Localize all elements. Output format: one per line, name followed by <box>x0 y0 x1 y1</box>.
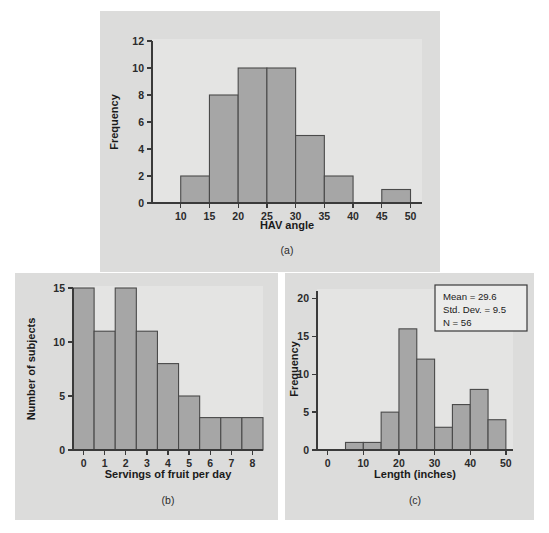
x-tick-label: 20 <box>232 210 244 222</box>
histogram-bar <box>115 288 136 450</box>
y-tick-label: 10 <box>132 62 144 74</box>
x-tick-label: 40 <box>347 210 359 222</box>
histogram-bar <box>452 405 470 450</box>
x-axis-ticks: 01020304050 <box>325 450 512 469</box>
x-tick-label: 10 <box>357 457 369 469</box>
y-tick-label: 8 <box>138 89 144 101</box>
histogram-bar <box>470 389 488 450</box>
y-axis-title: Frequency <box>108 93 120 150</box>
x-tick-label: 40 <box>464 457 476 469</box>
histogram-bar <box>238 68 267 203</box>
y-axis-ticks: 051015 <box>53 282 73 456</box>
histogram-bar <box>181 176 210 203</box>
figure-panel-b: 051015012345678Servings of fruit per day… <box>15 273 278 520</box>
stats-n: N = 56 <box>443 317 472 328</box>
x-tick-label: 50 <box>405 210 417 222</box>
stats-stddev: Std. Dev. = 9.5 <box>443 304 506 315</box>
histogram-servings-of-fruit: 051015012345678Servings of fruit per day… <box>15 273 278 520</box>
y-tick-label: 6 <box>138 116 144 128</box>
y-tick-label: 0 <box>303 444 309 456</box>
y-axis-ticks: 024681012 <box>132 35 152 209</box>
y-tick-label: 15 <box>297 330 309 342</box>
histogram-bar <box>267 68 296 203</box>
y-tick-label: 20 <box>297 292 309 304</box>
y-tick-label: 12 <box>132 35 144 47</box>
y-tick-label: 0 <box>138 197 144 209</box>
histogram-bar <box>381 412 399 450</box>
y-tick-label: 0 <box>59 444 65 456</box>
histogram-bar <box>324 176 353 203</box>
histogram-bar <box>346 442 364 450</box>
figure-panel-a: 024681012101520253035404550HAV angleFreq… <box>100 11 440 272</box>
histogram-bar <box>399 329 417 450</box>
histogram-bar <box>417 359 435 450</box>
x-tick-label: 8 <box>250 457 256 469</box>
histogram-bar <box>157 364 178 450</box>
x-axis-title: Length (inches) <box>374 468 456 480</box>
panel-caption: (a) <box>281 244 294 256</box>
x-axis-title: Servings of fruit per day <box>105 468 232 480</box>
stats-mean: Mean = 29.6 <box>443 291 497 302</box>
histogram-hav-angle: 024681012101520253035404550HAV angleFreq… <box>100 11 440 272</box>
y-tick-label: 5 <box>59 390 65 402</box>
figure-panel-c: 0510152001020304050Length (inches)Freque… <box>285 273 534 520</box>
y-axis-title: Frequency <box>288 340 300 397</box>
x-tick-label: 15 <box>204 210 216 222</box>
x-axis-ticks: 012345678 <box>81 450 256 469</box>
y-tick-label: 2 <box>138 170 144 182</box>
histogram-bar <box>221 418 242 450</box>
histogram-bar <box>296 136 325 204</box>
panel-caption: (b) <box>162 494 175 506</box>
histogram-bar <box>435 427 453 450</box>
histogram-bar <box>73 288 94 450</box>
histogram-bar <box>136 331 157 450</box>
histogram-bar <box>242 418 263 450</box>
histogram-bar <box>382 190 411 204</box>
y-axis-title: Number of subjects <box>25 318 37 421</box>
histogram-length-inches: 0510152001020304050Length (inches)Freque… <box>285 273 534 520</box>
panel-caption: (c) <box>409 494 421 506</box>
y-tick-label: 5 <box>303 406 309 418</box>
histogram-bar <box>363 442 381 450</box>
histogram-bar <box>488 420 506 450</box>
histogram-bar <box>209 95 238 203</box>
histogram-bar <box>179 396 200 450</box>
histogram-bar <box>94 331 115 450</box>
x-tick-label: 50 <box>500 457 512 469</box>
y-tick-label: 4 <box>138 143 144 155</box>
y-tick-label: 10 <box>53 336 65 348</box>
x-tick-label: 35 <box>318 210 330 222</box>
x-axis-title: HAV angle <box>260 219 314 231</box>
x-tick-label: 45 <box>376 210 388 222</box>
x-tick-label: 10 <box>175 210 187 222</box>
y-tick-label: 15 <box>53 282 65 294</box>
y-axis-ticks: 05101520 <box>297 292 317 455</box>
x-tick-label: 0 <box>325 457 331 469</box>
histogram-bar <box>200 418 221 450</box>
x-tick-label: 0 <box>81 457 87 469</box>
